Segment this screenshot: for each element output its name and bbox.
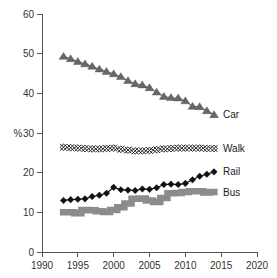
data-point-marker	[202, 107, 211, 114]
chart-container: 0102030405060 19901995200020052010201520…	[0, 0, 277, 278]
data-point-marker	[196, 173, 203, 180]
series-car	[59, 52, 218, 117]
x-tick-label: 2015	[210, 260, 233, 271]
data-point-marker	[152, 88, 161, 95]
data-point-marker	[75, 196, 82, 203]
y-tick-label: 30	[23, 128, 35, 139]
y-tick-label: 60	[23, 9, 35, 20]
y-tick-label: 40	[23, 88, 35, 99]
series-label-walk: Walk	[223, 143, 246, 154]
x-tick-label: 2010	[174, 260, 197, 271]
y-tick-label: 50	[23, 48, 35, 59]
chart-series-group	[59, 52, 218, 213]
x-tick-label: 2020	[246, 260, 269, 271]
data-point-marker	[175, 181, 182, 188]
data-point-marker	[182, 180, 189, 187]
y-axis-title: %	[14, 128, 23, 139]
data-point-marker	[211, 169, 218, 176]
series-label-rail: Rail	[223, 166, 240, 177]
data-point-marker	[82, 196, 89, 203]
y-axis-ticks: 0102030405060	[23, 9, 42, 258]
series-line-bus	[60, 191, 218, 213]
series-label-group: CarWalkRailBus	[223, 109, 246, 197]
data-point-marker	[96, 192, 103, 199]
data-point-marker	[139, 186, 146, 193]
data-point-marker	[161, 181, 168, 188]
y-tick-label: 20	[23, 167, 35, 178]
line-chart: 0102030405060 19901995200020052010201520…	[0, 0, 277, 278]
data-point-marker	[204, 171, 211, 178]
series-label-bus: Bus	[223, 187, 240, 198]
data-point-marker	[210, 111, 219, 118]
data-point-marker	[168, 181, 175, 188]
data-point-marker	[67, 196, 74, 203]
x-axis-ticks: 1990199520002005201020152020	[31, 252, 269, 271]
data-point-marker	[146, 186, 153, 193]
x-tick-label: 2000	[103, 260, 126, 271]
series-label-car: Car	[223, 109, 240, 120]
x-tick-label: 2005	[138, 260, 161, 271]
data-point-marker	[118, 186, 125, 193]
x-tick-label: 1995	[67, 260, 90, 271]
data-point-marker	[189, 177, 196, 184]
data-point-marker	[125, 187, 132, 194]
series-bus	[60, 191, 218, 213]
data-point-marker	[153, 184, 160, 191]
data-point-marker	[59, 52, 68, 59]
data-point-marker	[124, 77, 133, 84]
data-point-marker	[132, 187, 139, 194]
y-tick-label: 10	[23, 207, 35, 218]
x-tick-label: 1990	[31, 260, 54, 271]
y-tick-label: 0	[28, 247, 34, 258]
data-point-marker	[159, 93, 168, 100]
data-point-marker	[60, 197, 67, 204]
series-walk	[60, 144, 217, 154]
data-point-marker	[89, 193, 96, 200]
